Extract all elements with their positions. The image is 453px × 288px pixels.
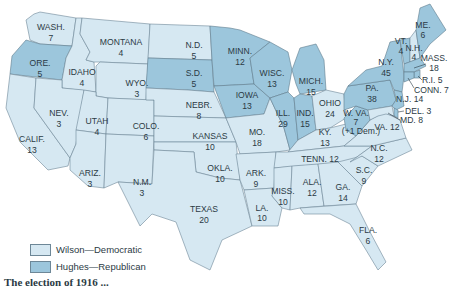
votes-ill: 29 [278, 119, 288, 129]
label-ind: IND. [296, 108, 313, 118]
map-caption: The election of 1916 ... [4, 276, 109, 288]
label-kansas: KANSAS [193, 131, 228, 141]
votes-ky: 13 [320, 138, 330, 148]
votes-ariz: 3 [88, 179, 93, 189]
votes-nc: 12 [374, 154, 384, 164]
label-wisc: WISC. [260, 68, 285, 78]
label-utah: UTAH [86, 116, 109, 126]
label-ore: ORE. [29, 58, 50, 68]
label-ri: R.I. 5 [422, 75, 443, 85]
label-idaho: IDAHO [68, 67, 96, 77]
votes-colo: 6 [144, 132, 149, 142]
label-pa: PA. [365, 83, 378, 93]
votes-mich: 15 [306, 87, 316, 97]
votes-wash: 7 [49, 33, 54, 43]
label-montana: MONTANA [100, 37, 143, 47]
state-conn [404, 72, 414, 82]
label-mass: MASS. [421, 53, 448, 63]
label-okla: OKLA. [207, 163, 232, 173]
votes-sd: 5 [192, 79, 197, 89]
label-ark: ARK. [246, 168, 266, 178]
label-wash: WASH. [37, 22, 65, 32]
label-tenn: TENN. 12 [301, 154, 339, 164]
label-mich: MICH. [299, 76, 323, 86]
legend-item-democratic: Wilson—Democratic [30, 242, 146, 257]
votes-nebr: 8 [197, 111, 202, 121]
label-nebr: NEBR. [186, 100, 212, 110]
label-iowa: IOWA [236, 90, 259, 100]
note-wva: (+1 Dem.) [342, 126, 381, 136]
votes-texas: 20 [199, 215, 209, 225]
legend: Wilson—Democratic Hughes—Republican [30, 242, 146, 276]
votes-pa: 38 [367, 94, 377, 104]
label-sd: S.D. [186, 68, 203, 78]
votes-ny: 45 [381, 68, 391, 78]
legend-item-republican: Hughes—Republican [30, 259, 146, 274]
legend-label-democratic: Wilson—Democratic [56, 244, 142, 255]
legend-label-republican: Hughes—Republican [56, 261, 146, 272]
votes-minn: 12 [235, 57, 245, 67]
votes-okla: 10 [215, 174, 225, 184]
label-calif: CALIF. [19, 134, 45, 144]
swatch-democratic [30, 244, 51, 256]
state-sd [146, 58, 214, 92]
label-ohio: OHIO [319, 98, 341, 108]
votes-idaho: 4 [80, 78, 85, 88]
label-sc: S.C. [356, 165, 373, 175]
label-nev: NEV. [49, 108, 68, 118]
votes-nh: 4 [412, 52, 417, 62]
label-ga: GA. [336, 182, 351, 192]
label-fla: FLA. [359, 225, 377, 235]
votes-utah: 4 [95, 127, 100, 137]
state-del [394, 108, 398, 118]
votes-fla: 6 [366, 236, 371, 246]
label-nm: N.M. [133, 177, 151, 187]
label-ariz: ARIZ. [79, 168, 101, 178]
votes-mo: 18 [252, 138, 262, 148]
votes-ark: 9 [254, 179, 259, 189]
label-colo: COLO. [133, 121, 160, 131]
votes-nm: 3 [140, 188, 145, 198]
label-ala: ALA. [303, 177, 322, 187]
votes-ind: 15 [300, 119, 310, 129]
votes-wisc: 13 [267, 79, 277, 89]
votes-me: 6 [421, 30, 426, 40]
votes-iowa: 13 [242, 101, 252, 111]
label-texas: TEXAS [190, 204, 218, 214]
votes-calif: 13 [27, 145, 37, 155]
votes-ga: 14 [338, 193, 348, 203]
label-nc: N.C. [370, 143, 387, 153]
votes-sc: 9 [362, 176, 367, 186]
label-miss: MISS. [271, 186, 294, 196]
votes-wyo: 3 [135, 89, 140, 99]
votes-montana: 4 [119, 48, 124, 58]
label-minn: MINN. [228, 46, 252, 56]
votes-nev: 3 [57, 119, 62, 129]
state-fla [300, 204, 386, 270]
label-ny: N.Y. [378, 57, 394, 67]
votes-la: 10 [257, 213, 267, 223]
label-wyo: WYO. [126, 78, 149, 88]
label-mo: MO. [249, 127, 265, 137]
label-ky: KY. [319, 127, 332, 137]
label-nd: N.D. [185, 40, 202, 50]
votes-ore: 5 [38, 69, 43, 79]
votes-ohio: 24 [325, 109, 335, 119]
votes-kansas: 10 [205, 142, 215, 152]
votes-nd: 5 [192, 51, 197, 61]
label-la: LA. [256, 203, 269, 213]
label-nj: N.J. 14 [396, 94, 423, 104]
votes-miss: 10 [278, 197, 288, 207]
votes-ala: 12 [307, 188, 317, 198]
swatch-republican [30, 261, 51, 273]
label-me: ME. [415, 20, 430, 30]
label-ill: ILL. [276, 108, 290, 118]
votes-vt: 4 [399, 46, 404, 56]
votes-mass: 18 [429, 63, 439, 73]
label-md: MD. 8 [400, 115, 423, 125]
